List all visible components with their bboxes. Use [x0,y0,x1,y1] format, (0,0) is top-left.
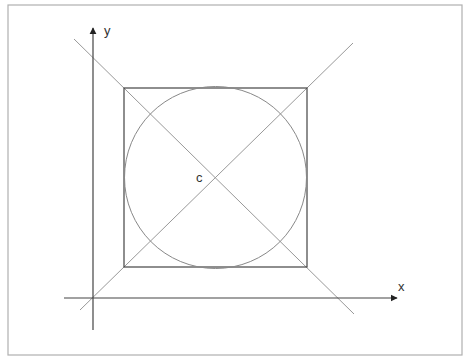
x-axis-label: x [398,280,405,293]
y-axis-label: y [104,24,111,37]
outer-frame [8,5,462,355]
diagonal-line-2 [80,43,353,310]
center-label: c [196,171,203,184]
diagonal-line-1 [74,39,354,314]
diagram-canvas [0,0,470,361]
